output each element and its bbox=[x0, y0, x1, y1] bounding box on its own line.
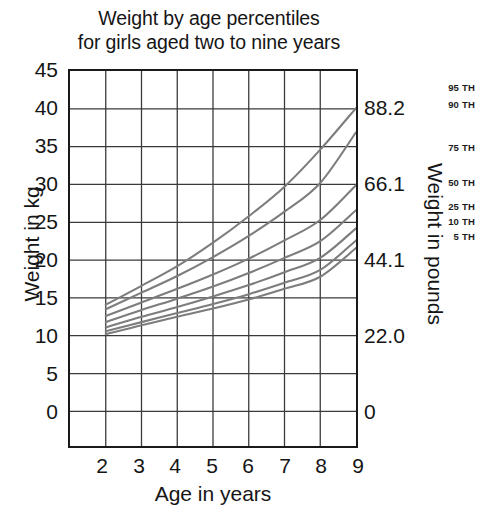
rtick-44-1: 44.1 bbox=[364, 249, 405, 270]
ytick-5: 5 bbox=[12, 363, 58, 384]
xtick-8: 8 bbox=[306, 455, 336, 476]
xtick-6: 6 bbox=[233, 455, 263, 476]
rtick-66-1: 66.1 bbox=[364, 173, 405, 194]
ytick-45: 45 bbox=[12, 59, 58, 80]
curve-95-th bbox=[106, 108, 356, 305]
percentile-label-75-th: 75 TH bbox=[435, 142, 475, 153]
curve-75-th bbox=[106, 185, 356, 316]
rtick-88-2: 88.2 bbox=[364, 97, 405, 118]
x-axis-label: Age in years bbox=[68, 482, 358, 506]
xtick-3: 3 bbox=[124, 455, 154, 476]
percentile-label-95-th: 95 TH bbox=[435, 82, 475, 93]
percentile-label-5-th: 5 TH bbox=[435, 231, 475, 242]
y-axis-label-right: Weight in pounds bbox=[423, 129, 447, 359]
plot-area bbox=[68, 69, 358, 448]
ytick-0: 0 bbox=[12, 401, 58, 422]
ytick-40: 40 bbox=[12, 97, 58, 118]
page-title: Weight by age percentiles for girls aged… bbox=[0, 6, 418, 54]
percentile-label-50-th: 50 TH bbox=[435, 177, 475, 188]
rtick-0: 0 bbox=[364, 401, 376, 422]
title-line-2: for girls aged two to nine years bbox=[0, 30, 418, 54]
xtick-2: 2 bbox=[87, 455, 117, 476]
percentile-label-90-th: 90 TH bbox=[435, 99, 475, 110]
xtick-5: 5 bbox=[197, 455, 227, 476]
title-line-1: Weight by age percentiles bbox=[0, 6, 418, 30]
xtick-7: 7 bbox=[270, 455, 300, 476]
xtick-9: 9 bbox=[343, 455, 373, 476]
chart-canvas bbox=[70, 71, 356, 446]
chart-page: Weight by age percentiles for girls aged… bbox=[0, 0, 480, 518]
percentile-label-10-th: 10 TH bbox=[435, 216, 475, 227]
percentile-label-25-th: 25 TH bbox=[435, 201, 475, 212]
xtick-4: 4 bbox=[160, 455, 190, 476]
rtick-22-0: 22.0 bbox=[364, 325, 405, 346]
y-axis-label-left: Weight in kg bbox=[20, 144, 44, 344]
